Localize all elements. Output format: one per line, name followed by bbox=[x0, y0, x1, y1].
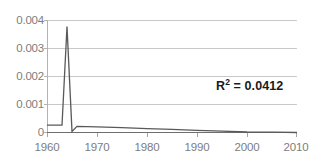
chart-container: 0.004 0.003 0.002 0.001 0 1960 1970 1980… bbox=[0, 0, 309, 161]
x-tick-label: 1990 bbox=[177, 141, 217, 153]
x-tick-label: 2000 bbox=[227, 141, 267, 153]
x-tick-label: 1980 bbox=[127, 141, 167, 153]
r-squared-value: = 0.0412 bbox=[230, 79, 283, 93]
r-squared-symbol: R bbox=[216, 79, 225, 93]
x-tick-label: 1970 bbox=[77, 141, 117, 153]
x-tick-label: 1960 bbox=[27, 141, 67, 153]
x-tick-label: 2010 bbox=[276, 141, 309, 153]
r-squared-annotation: R2 = 0.0412 bbox=[216, 79, 283, 93]
